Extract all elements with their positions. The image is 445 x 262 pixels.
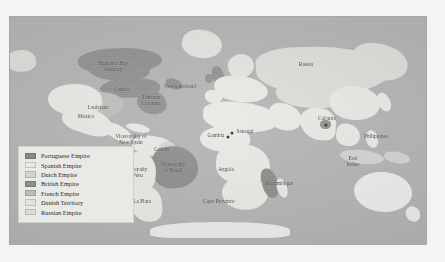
legend-swatch-icon	[25, 209, 36, 215]
legend-label: French Empire	[41, 190, 79, 197]
landmass-newfoundland-isle	[164, 76, 184, 92]
legend-swatch-icon	[25, 162, 36, 168]
legend-swatch-icon	[25, 171, 36, 177]
legend-item-british-empire: British Empire	[25, 179, 128, 188]
legend-item-french-empire: French Empire	[25, 189, 128, 198]
landmass-brazil	[150, 144, 200, 191]
historical-map-figure: Hudson's Bay TerritoryCanadaNewfoundland…	[0, 0, 445, 262]
legend-label: Russian Empire	[41, 209, 82, 216]
legend-swatch-icon	[25, 190, 36, 196]
legend-swatch-icon	[25, 153, 36, 159]
landmass-antarctic-edge	[150, 222, 290, 238]
legend-item-russian-empire: Russian Empire	[25, 207, 128, 216]
legend-label: British Empire	[41, 180, 79, 187]
landmass-new-guinea	[383, 150, 411, 165]
legend-item-spanish-empire: Spanish Empire	[25, 160, 128, 169]
legend-item-portuguese-empire: Portuguese Empire	[25, 151, 128, 160]
legend-item-dutch-empire: Dutch Empire	[25, 170, 128, 179]
landmass-india	[299, 107, 337, 141]
landmass-southeast-asia	[334, 122, 361, 148]
gambia-marker	[227, 136, 230, 139]
legend-swatch-icon	[25, 199, 36, 205]
landmass-greenland	[180, 26, 225, 62]
landmass-china	[329, 85, 380, 121]
landmass-ireland	[205, 74, 213, 83]
legend-item-danish-territory: Danish Territory	[25, 198, 128, 207]
landmass-new-zealand	[403, 204, 423, 225]
calcutta-marker	[325, 124, 328, 127]
legend-label: Dutch Empire	[41, 171, 77, 178]
legend-row-list: Portuguese EmpireSpanish EmpireDutch Emp…	[25, 151, 128, 217]
legend-label: Portuguese Empire	[41, 152, 90, 159]
legend-label: Danish Territory	[41, 199, 83, 206]
map-legend: Portuguese EmpireSpanish EmpireDutch Emp…	[18, 146, 134, 223]
landmass-alaska	[10, 48, 37, 74]
landmass-thirteen-colonies-land	[135, 88, 168, 116]
landmass-east-indies-isles	[339, 148, 384, 167]
landmass-philippines-isles	[364, 129, 380, 149]
landmass-australia	[353, 171, 412, 213]
senegal-marker	[231, 132, 234, 135]
legend-label: Spanish Empire	[41, 162, 82, 169]
legend-swatch-icon	[25, 181, 36, 187]
